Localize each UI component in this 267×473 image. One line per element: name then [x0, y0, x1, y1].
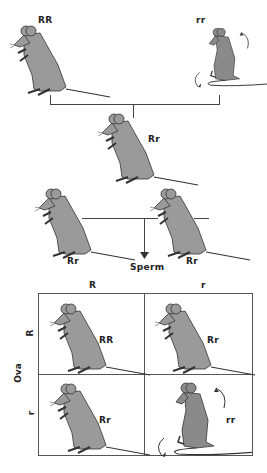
dominant-mouse-icon: [10, 25, 120, 105]
f1-cross-right-mouse-icon: [150, 188, 260, 268]
sperm-arrow-shaft: [144, 218, 145, 254]
row-header-R: R: [25, 330, 35, 337]
cell-RR-label: RR: [99, 335, 113, 345]
cell-rr-label: rr: [226, 415, 235, 425]
f1-cross-right-label: Rr: [186, 256, 198, 266]
f1-cross-left-mouse-icon: [35, 188, 145, 268]
f1-mouse-icon: [98, 113, 208, 193]
parent-rr-label: RR: [38, 15, 52, 25]
ova-label: Ova: [13, 363, 23, 383]
f1-genotype-label: Rr: [148, 134, 160, 144]
f1-cross-left-label: Rr: [67, 256, 79, 266]
cell-Rr-top-label: Rr: [207, 335, 219, 345]
arrow-down-icon: [140, 252, 149, 259]
recessive-waltzing-mouse-icon: [190, 18, 267, 98]
cross-line-left: [82, 218, 158, 219]
cell-rr-het-mouse-icon: [155, 303, 255, 383]
cross-line-right: [194, 218, 209, 219]
row-header-r: r: [26, 411, 36, 415]
bracket-bar: [50, 104, 220, 105]
column-header-R: R: [89, 280, 96, 290]
cell-rr-waltzing-mouse-icon: [152, 380, 252, 460]
sperm-label: Sperm: [130, 262, 164, 272]
cell-Rr-bottom-label: Rr: [99, 415, 111, 425]
column-header-r: r: [201, 280, 206, 290]
